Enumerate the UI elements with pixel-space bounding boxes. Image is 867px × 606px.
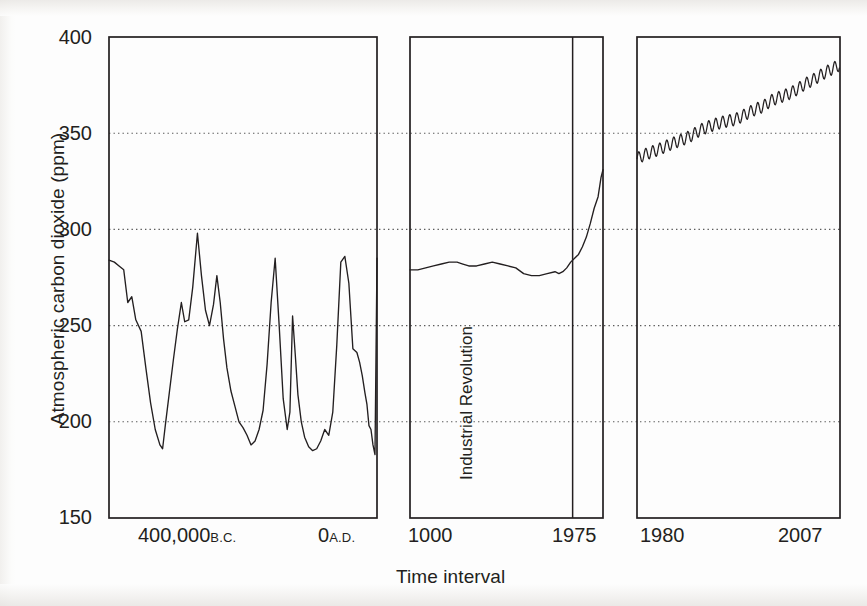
industrial-revolution-label: Industrial Revolution <box>457 303 477 503</box>
x-tick-panel1-right-number: 0 <box>318 524 329 546</box>
chart-plot <box>0 0 867 606</box>
x-tick-panel2-left: 1000 <box>408 524 453 547</box>
x-tick-panel2-right: 1975 <box>552 524 597 547</box>
x-tick-panel1-left: 400,000B.C. <box>138 524 236 547</box>
panel-frame-keeling-curve <box>637 37 840 518</box>
curve-last-millennium <box>410 170 603 276</box>
curve-keeling-curve <box>637 61 839 161</box>
x-axis-title: Time interval <box>396 566 505 588</box>
x-tick-panel1-left-era: B.C. <box>210 530 236 545</box>
y-tick-400: 400 <box>36 26 92 49</box>
figure-container: 400 350 300 250 200 150 400,000B.C. 0A.D… <box>0 0 867 606</box>
curve-ice-core-record <box>109 233 377 454</box>
x-tick-panel3-left: 1980 <box>640 524 685 547</box>
panel-frame-ice-core-record <box>109 37 377 518</box>
x-tick-panel1-right-era: A.D. <box>329 530 355 545</box>
y-axis-title: Atmospheric carbon dioxide (ppm) <box>47 99 69 459</box>
panel-frame-last-millennium <box>410 37 603 518</box>
y-tick-150: 150 <box>36 506 92 529</box>
x-tick-panel3-right: 2007 <box>778 524 823 547</box>
x-tick-panel1-right: 0A.D. <box>318 524 355 547</box>
x-tick-panel1-left-number: 400,000 <box>138 524 210 546</box>
